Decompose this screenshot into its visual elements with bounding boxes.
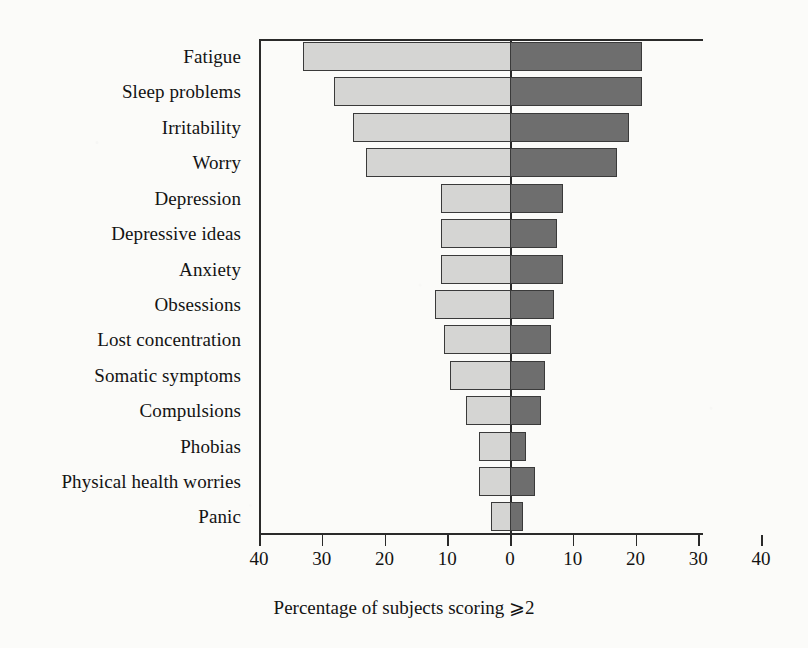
bar-row: [259, 145, 703, 180]
x-axis: 40302010010203040: [259, 535, 703, 536]
category-label: Sleep problems: [0, 74, 250, 109]
x-axis-tick: [636, 535, 638, 546]
bar-segment-left: [479, 467, 511, 496]
bar-segment-right: [510, 148, 617, 177]
bar-row: [259, 287, 703, 322]
bar-segment-right: [510, 219, 557, 248]
x-axis-tick: [573, 535, 575, 546]
bar-row: [259, 110, 703, 145]
bar-segment-right: [510, 290, 554, 319]
x-axis-tick-label: 10: [545, 548, 601, 570]
category-label: Anxiety: [0, 252, 250, 287]
bar-segment-left: [441, 255, 511, 284]
bar-segment-right: [510, 77, 642, 106]
x-axis-tick: [761, 535, 763, 546]
bar-segment-left: [479, 432, 511, 461]
bar-segment-right: [510, 325, 551, 354]
category-label: Fatigue: [0, 39, 250, 74]
bar-segment-right: [510, 467, 535, 496]
bar-row: [259, 216, 703, 251]
category-axis-labels: FatigueSleep problemsIrritabilityWorryDe…: [0, 39, 250, 535]
bar-segment-left: [435, 290, 511, 319]
category-label: Panic: [0, 499, 250, 534]
bar-row: [259, 358, 703, 393]
x-axis-tick: [385, 535, 387, 546]
bar-segment-right: [510, 184, 563, 213]
category-label: Irritability: [0, 110, 250, 145]
x-axis-tick-label: 30: [670, 548, 726, 570]
bar-segment-left: [303, 42, 511, 71]
bar-segment-left: [450, 361, 511, 390]
x-axis-tick: [698, 535, 700, 546]
bar-row: [259, 181, 703, 216]
bar-segment-left: [441, 219, 511, 248]
bar-segment-right: [510, 432, 526, 461]
bars-layer: [259, 39, 703, 535]
bar-row: [259, 322, 703, 357]
x-axis-tick-label: 40: [733, 548, 789, 570]
category-label: Obsessions: [0, 287, 250, 322]
bar-row: [259, 464, 703, 499]
x-axis-tick-label: 40: [231, 548, 287, 570]
category-label: Phobias: [0, 429, 250, 464]
x-axis-tick-label: 20: [357, 548, 413, 570]
x-axis-tick-label: 0: [482, 548, 538, 570]
bar-segment-right: [510, 361, 545, 390]
bar-segment-left: [334, 77, 511, 106]
category-label: Lost concentration: [0, 322, 250, 357]
x-axis-tick: [447, 535, 449, 546]
x-axis-tick-label: 10: [419, 548, 475, 570]
bar-segment-right: [510, 113, 629, 142]
x-axis-title: Percentage of subjects scoring ⩾2: [0, 596, 808, 619]
bar-row: [259, 252, 703, 287]
bar-row: [259, 499, 703, 534]
bar-segment-left: [353, 113, 511, 142]
x-axis-tick-label: 30: [294, 548, 350, 570]
bar-row: [259, 39, 703, 74]
category-label: Compulsions: [0, 393, 250, 428]
bar-segment-right: [510, 255, 563, 284]
category-label: Physical health worries: [0, 464, 250, 499]
bar-segment-right: [510, 42, 642, 71]
bar-segment-left: [441, 184, 511, 213]
bar-row: [259, 393, 703, 428]
bar-segment-right: [510, 502, 523, 531]
bar-row: [259, 429, 703, 464]
category-label: Worry: [0, 145, 250, 180]
bar-segment-left: [466, 396, 511, 425]
category-label: Somatic symptoms: [0, 358, 250, 393]
bar-segment-left: [491, 502, 511, 531]
bar-segment-left: [366, 148, 511, 177]
bar-segment-left: [444, 325, 511, 354]
diverging-bar-chart: FatigueSleep problemsIrritabilityWorryDe…: [0, 0, 808, 648]
x-axis-tick: [322, 535, 324, 546]
bar-row: [259, 74, 703, 109]
x-axis-tick-label: 20: [608, 548, 664, 570]
category-label: Depression: [0, 181, 250, 216]
category-label: Depressive ideas: [0, 216, 250, 251]
x-axis-tick: [510, 535, 512, 546]
x-axis-tick: [259, 535, 261, 546]
bar-segment-right: [510, 396, 541, 425]
